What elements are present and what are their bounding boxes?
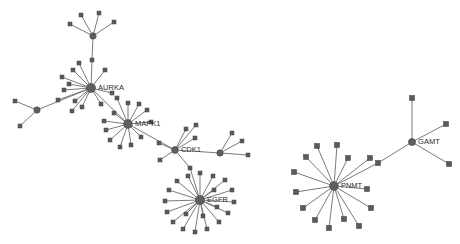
graph-node-leaf[interactable]	[181, 227, 185, 231]
graph-node-leaf[interactable]	[367, 155, 372, 160]
graph-node-leaf[interactable]	[129, 143, 133, 147]
graph-node-leaf[interactable]	[158, 158, 162, 162]
graph-node-leaf[interactable]	[326, 225, 331, 230]
graph-edge	[303, 186, 334, 208]
graph-node-gamt[interactable]	[408, 138, 415, 145]
graph-node-leaf[interactable]	[186, 174, 190, 178]
graph-node-leaf[interactable]	[97, 11, 101, 15]
graph-node-leaf[interactable]	[175, 179, 179, 183]
graph-node-leaf[interactable]	[99, 102, 103, 106]
graph-node-leaf[interactable]	[314, 143, 319, 148]
graph-node-leaf[interactable]	[139, 135, 143, 139]
graph-node-leaf[interactable]	[215, 205, 219, 209]
graph-node-mapk1[interactable]	[124, 120, 133, 129]
graph-node-leaf[interactable]	[112, 20, 116, 24]
graph-node-leaf[interactable]	[60, 75, 64, 79]
graph-node-leaf[interactable]	[56, 98, 60, 102]
graph-node-label-cdk1: CDK1	[181, 145, 201, 154]
graph-node-leaf[interactable]	[193, 136, 197, 140]
graph-edge	[334, 145, 337, 186]
graph-node-leaf[interactable]	[194, 123, 198, 127]
graph-node-leaf[interactable]	[167, 188, 171, 192]
graph-node-hub[interactable]	[217, 150, 223, 156]
graph-node-leaf[interactable]	[291, 169, 296, 174]
graph-edge	[306, 157, 334, 186]
graph-edge	[15, 101, 37, 110]
graph-node-leaf[interactable]	[240, 139, 244, 143]
graph-node-leaf[interactable]	[446, 161, 451, 166]
graph-node-leaf[interactable]	[137, 102, 141, 106]
graph-node-leaf[interactable]	[232, 200, 236, 204]
graph-node-hub[interactable]	[34, 107, 40, 113]
graph-node-leaf[interactable]	[312, 217, 317, 222]
graph-node-leaf[interactable]	[205, 227, 209, 231]
graph-edge	[20, 110, 37, 126]
graph-node-leaf[interactable]	[71, 68, 75, 72]
graph-node-leaf[interactable]	[334, 142, 339, 147]
graph-node-leaf[interactable]	[171, 220, 175, 224]
graph-node-leaf[interactable]	[18, 124, 22, 128]
graph-node-leaf[interactable]	[226, 211, 230, 215]
graph-node-egfr[interactable]	[195, 195, 204, 204]
graph-edge	[329, 186, 334, 228]
graph-node-leaf[interactable]	[201, 214, 205, 218]
graph-node-leaf[interactable]	[112, 111, 116, 115]
graph-edge	[220, 153, 248, 155]
graph-edge	[92, 36, 93, 60]
graph-node-leaf[interactable]	[230, 188, 234, 192]
graph-node-hub[interactable]	[90, 33, 96, 39]
graph-node-leaf[interactable]	[67, 82, 71, 86]
graph-edge	[165, 200, 200, 201]
graph-node-label-aurka: AURKA	[98, 83, 124, 92]
graph-node-leaf[interactable]	[212, 188, 216, 192]
graph-node-leaf[interactable]	[163, 199, 167, 203]
graph-node-leaf[interactable]	[68, 22, 72, 26]
graph-node-leaf[interactable]	[368, 205, 373, 210]
graph-node-leaf[interactable]	[230, 131, 234, 135]
graph-node-leaf[interactable]	[217, 220, 221, 224]
graph-node-leaf[interactable]	[246, 153, 250, 157]
graph-node-leaf[interactable]	[157, 141, 161, 145]
graph-edge	[317, 146, 334, 186]
graph-node-leaf[interactable]	[375, 160, 380, 165]
graph-node-leaf[interactable]	[126, 101, 130, 105]
graph-node-leaf[interactable]	[73, 99, 77, 103]
graph-node-leaf[interactable]	[364, 186, 369, 191]
graph-node-leaf[interactable]	[293, 189, 298, 194]
graph-node-leaf[interactable]	[80, 105, 84, 109]
graph-node-leaf[interactable]	[104, 128, 108, 132]
graph-node-leaf[interactable]	[62, 88, 66, 92]
graph-node-leaf[interactable]	[188, 166, 192, 170]
graph-node-leaf[interactable]	[108, 138, 112, 142]
graph-node-leaf[interactable]	[118, 145, 122, 149]
graph-node-leaf[interactable]	[223, 178, 227, 182]
graph-node-leaf[interactable]	[90, 58, 94, 62]
graph-node-leaf[interactable]	[184, 212, 188, 216]
graph-node-leaf[interactable]	[184, 127, 188, 131]
graph-node-leaf[interactable]	[70, 109, 74, 113]
network-graph: AURKAMAPK1CDK1EGFRPNMTGAMT	[0, 0, 460, 244]
graph-node-leaf[interactable]	[165, 210, 169, 214]
graph-node-leaf[interactable]	[77, 61, 81, 65]
graph-node-leaf[interactable]	[193, 230, 197, 234]
graph-node-leaf[interactable]	[79, 13, 83, 17]
network-diagram-canvas: AURKAMAPK1CDK1EGFRPNMTGAMT	[0, 0, 460, 244]
graph-node-aurka[interactable]	[86, 83, 95, 92]
graph-node-cdk1[interactable]	[172, 147, 179, 154]
graph-node-leaf[interactable]	[443, 121, 448, 126]
graph-node-leaf[interactable]	[341, 216, 346, 221]
graph-node-pnmt[interactable]	[330, 182, 339, 191]
graph-node-leaf[interactable]	[198, 171, 202, 175]
graph-node-leaf[interactable]	[145, 108, 149, 112]
graph-node-leaf[interactable]	[13, 99, 17, 103]
graph-node-leaf[interactable]	[103, 68, 107, 72]
graph-node-leaf[interactable]	[115, 96, 119, 100]
graph-node-leaf[interactable]	[345, 155, 350, 160]
graph-node-leaf[interactable]	[303, 154, 308, 159]
graph-node-leaf[interactable]	[409, 95, 414, 100]
graph-node-leaf[interactable]	[102, 119, 106, 123]
graph-node-label-pnmt: PNMT	[341, 181, 363, 190]
graph-node-leaf[interactable]	[356, 223, 361, 228]
graph-node-leaf[interactable]	[211, 174, 215, 178]
graph-node-leaf[interactable]	[300, 205, 305, 210]
